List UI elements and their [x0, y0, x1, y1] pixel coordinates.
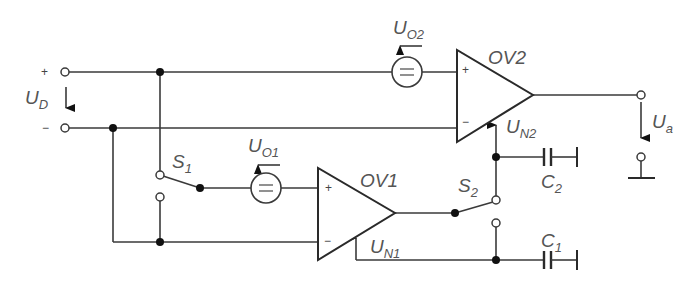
capacitor-c2	[544, 147, 577, 167]
label-uo2: UO2	[393, 18, 424, 41]
input-minus-sign: −	[42, 122, 49, 134]
label-c2: C2	[541, 172, 562, 195]
label-ov1: OV1	[360, 171, 398, 190]
ov2-minus-sign: −	[462, 116, 469, 128]
ov2-plus-sign: +	[462, 64, 469, 76]
switch-s1-arm	[163, 176, 200, 188]
label-ua: Ua	[652, 112, 673, 135]
switch-s2-arm	[455, 202, 493, 213]
offset-source-uo1	[251, 173, 281, 203]
label-un1: UN1	[370, 237, 400, 260]
label-un2: UN2	[506, 117, 536, 140]
label-uo1: UO1	[248, 136, 279, 159]
label-ud: UD	[25, 88, 48, 111]
junction-dots	[109, 68, 500, 264]
ov1-plus-sign: +	[325, 182, 332, 194]
circuit-schematic	[0, 0, 696, 285]
offset-source-uo2	[392, 57, 422, 87]
label-s1: S1	[172, 152, 192, 175]
ov1-minus-sign: −	[324, 235, 331, 247]
label-c1: C1	[541, 231, 562, 254]
input-plus-sign: +	[41, 66, 48, 78]
output-ground	[628, 161, 655, 178]
label-ov2: OV2	[488, 48, 526, 67]
label-s2: S2	[458, 176, 478, 199]
